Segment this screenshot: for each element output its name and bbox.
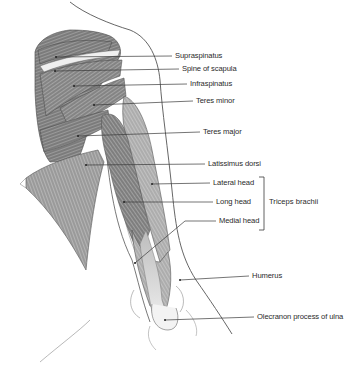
label-teres-minor: Teres minor <box>196 97 235 105</box>
label-lateral-head: Lateral head <box>213 179 254 187</box>
anatomy-diagram: Supraspinatus Spine of scapula Infraspin… <box>0 0 363 366</box>
label-teres-major: Teres major <box>203 128 242 136</box>
triceps-bracket <box>259 177 264 230</box>
label-infraspinatus: Infraspinatus <box>190 80 232 88</box>
latissimus-dorsi-muscle <box>26 150 104 270</box>
label-triceps-brachii: Triceps brachii <box>269 198 318 206</box>
label-long-head: Long head <box>216 198 251 206</box>
label-olecranon-process-of-ulna: Olecranon process of ulna <box>257 313 343 321</box>
olecranon <box>152 304 178 330</box>
label-latissimus-dorsi: Latissimus dorsi <box>208 160 261 168</box>
label-spine-of-scapula: Spine of scapula <box>182 65 237 73</box>
label-supraspinatus: Supraspinatus <box>175 52 222 60</box>
label-humerus: Humerus <box>252 272 282 280</box>
label-medial-head: Medial head <box>219 217 259 225</box>
